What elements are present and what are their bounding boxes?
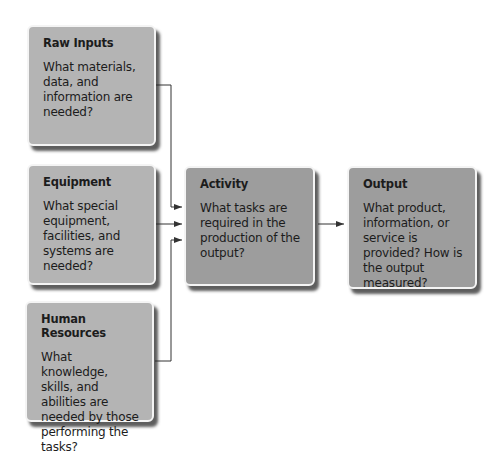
raw-inputs-title: Raw Inputs <box>43 36 144 50</box>
output-box: Output What product, information, or ser… <box>347 166 477 289</box>
raw-inputs-box: Raw Inputs What materials, data, and inf… <box>27 25 156 146</box>
human-resources-title: Human Resources <box>41 312 142 340</box>
edge-human-resources-to-activity <box>155 240 182 361</box>
equipment-title: Equipment <box>43 175 144 189</box>
activity-box: Activity What tasks are required in the … <box>184 166 315 286</box>
edge-raw-inputs-to-activity <box>156 85 182 207</box>
human-resources-body: What knowledge, skills, and abilities ar… <box>41 350 142 452</box>
raw-inputs-body: What materials, data, and information ar… <box>43 60 144 120</box>
equipment-box: Equipment What special equipment, facili… <box>27 164 156 285</box>
equipment-body: What special equipment, facilities, and … <box>43 199 144 274</box>
output-body: What product, information, or service is… <box>363 201 465 291</box>
human-resources-box: Human Resources What knowledge, skills, … <box>25 301 154 422</box>
activity-body: What tasks are required in the productio… <box>200 201 303 261</box>
activity-title: Activity <box>200 177 303 191</box>
output-title: Output <box>363 177 465 191</box>
